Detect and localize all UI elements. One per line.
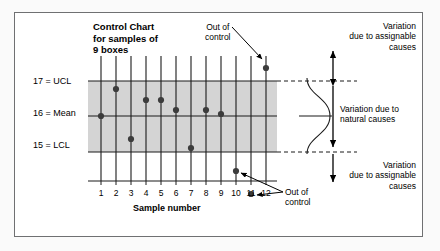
data-point	[113, 86, 119, 92]
data-point	[143, 97, 149, 103]
x-tick-label: 10	[229, 188, 243, 198]
x-tick-label: 3	[124, 188, 138, 198]
data-point-out-of-control	[263, 65, 269, 71]
x-tick-label: 1	[94, 188, 108, 198]
data-point	[173, 107, 179, 113]
annotation-variation-natural: Variation due to natural causes	[340, 104, 428, 125]
data-point	[128, 136, 134, 142]
annotation-variation-assignable-bottom: Variation due to assignable causes	[316, 160, 416, 191]
chart-title: Control Chart for samples of 9 boxes	[93, 21, 158, 56]
y-label-mean: 16 = Mean	[33, 108, 76, 119]
data-point-out-of-control	[233, 168, 239, 174]
y-label-ucl: 17 = UCL	[33, 76, 71, 87]
data-point	[203, 107, 209, 113]
data-point	[188, 145, 194, 151]
out-of-control-top-leader	[232, 27, 262, 59]
data-point	[158, 97, 164, 103]
x-tick-label: 6	[169, 188, 183, 198]
x-tick-label: 5	[154, 188, 168, 198]
annotation-out-of-control-bottom: Out of control	[285, 187, 311, 208]
x-tick-label: 8	[199, 188, 213, 198]
y-label-lcl: 15 = LCL	[33, 140, 70, 151]
x-axis-title: Sample number	[133, 203, 201, 214]
x-tick-label: 12	[259, 188, 273, 198]
x-tick-label: 11	[244, 188, 258, 198]
x-tick-label: 4	[139, 188, 153, 198]
data-point	[218, 111, 224, 117]
annotation-variation-assignable-top: Variation due to assignable causes	[316, 21, 416, 52]
x-tick-label: 9	[214, 188, 228, 198]
annotation-out-of-control-top: Out of control	[205, 22, 231, 43]
x-tick-marks	[101, 181, 266, 185]
x-tick-label: 7	[184, 188, 198, 198]
figure-root: Control Chart for samples of 9 boxes 17 …	[0, 0, 440, 251]
data-point	[98, 113, 104, 119]
x-tick-label: 2	[109, 188, 123, 198]
